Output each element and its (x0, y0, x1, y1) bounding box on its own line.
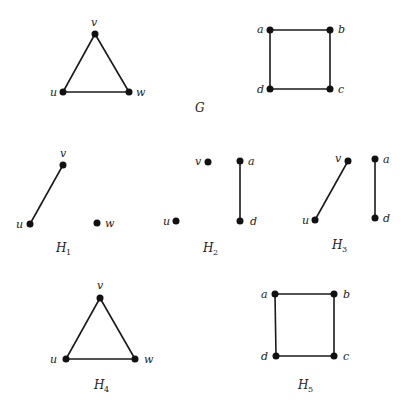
subgraph-h3: v u a d H 3 (302, 152, 390, 254)
vertex-v (92, 31, 99, 38)
label-u: u (16, 218, 23, 231)
h3-subscript: 3 (342, 245, 347, 254)
vertex-b (327, 27, 334, 34)
vertex-u (60, 89, 67, 96)
label-d: d (250, 215, 257, 228)
h4-subscript: 4 (104, 385, 109, 394)
label-a: a (383, 153, 390, 166)
label-u: u (302, 214, 309, 227)
subgraph-h2: v u a d H 2 (163, 155, 257, 257)
graph-g-triangle: v u w (50, 16, 146, 99)
label-u: u (163, 215, 170, 228)
label-a: a (257, 23, 264, 36)
label-w: w (144, 353, 154, 366)
vertex-c (327, 86, 334, 93)
label-v: v (335, 152, 342, 165)
subgraph-h4: v u w H 4 (50, 279, 154, 394)
subgraph-h1: v u w H 1 (16, 147, 115, 257)
label-b: b (343, 288, 350, 301)
label-d: d (261, 350, 268, 363)
label-a: a (248, 155, 255, 168)
label-c: c (338, 83, 344, 96)
label-u: u (50, 353, 57, 366)
label-v: v (60, 147, 67, 160)
label-w: w (136, 86, 146, 99)
subgraph-h5: a b c d H 5 (261, 288, 350, 394)
graph-figure: v u w a b c d G v u w H 1 v u (0, 0, 408, 407)
vertex-a (267, 27, 274, 34)
label-c: c (343, 350, 349, 363)
label-d: d (257, 83, 264, 96)
graph-g-square: a b c d (257, 23, 345, 96)
label-v: v (91, 16, 98, 29)
graph-g-title: G (195, 101, 205, 115)
label-w: w (105, 217, 115, 230)
label-v: v (195, 155, 202, 168)
vertex-d (267, 86, 274, 93)
label-d: d (383, 212, 390, 225)
h5-subscript: 5 (308, 385, 313, 394)
h1-subscript: 1 (66, 248, 71, 257)
vertex-w (126, 89, 133, 96)
h2-subscript: 2 (213, 248, 218, 257)
label-v: v (97, 279, 104, 292)
label-a: a (261, 288, 268, 301)
label-b: b (338, 23, 345, 36)
label-u: u (50, 86, 57, 99)
